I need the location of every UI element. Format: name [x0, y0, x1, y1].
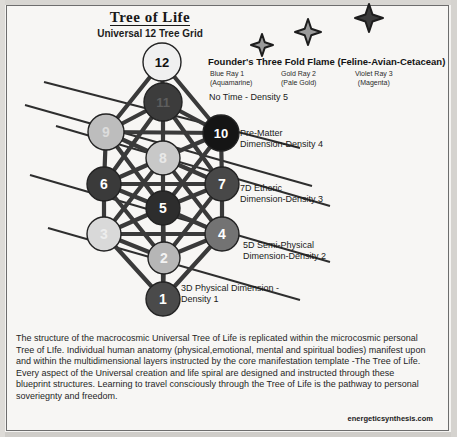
ray-color-blue: (Aquamarine)	[210, 78, 252, 87]
tree-node-label-10: 10	[214, 126, 228, 141]
tree-node-label-1: 1	[159, 291, 167, 307]
tree-node-11[interactable]: 11	[144, 83, 182, 121]
tree-node-label-3: 3	[100, 226, 108, 242]
tree-node-7[interactable]: 7	[205, 167, 239, 201]
ray-name-blue: Blue Ray 1	[210, 69, 252, 78]
tree-node-9[interactable]: 9	[88, 114, 124, 150]
tree-node-8[interactable]: 8	[146, 141, 180, 175]
density-label-1-line1: 3D Physical Dimension -	[181, 283, 279, 294]
ray-label-violet: Violet Ray 3 (Magenta)	[355, 69, 393, 87]
ray-label-blue: Blue Ray 1 (Aquamarine)	[210, 69, 252, 87]
ray-color-violet: (Magenta)	[355, 78, 393, 87]
density-label-1: 3D Physical Dimension - Density 1	[181, 283, 279, 305]
ray-label-gold: Gold Ray 2 (Pale Gold)	[281, 69, 316, 87]
tree-node-6[interactable]: 6	[87, 167, 121, 201]
density-label-3-line2: Dimension-Density 3	[240, 194, 323, 205]
density-label-4-line2: Dimension-Density 4	[240, 139, 323, 150]
tree-node-1[interactable]: 1	[146, 282, 180, 316]
description-paragraph: The structure of the macrocosmic Univers…	[16, 333, 430, 403]
tree-node-label-9: 9	[102, 124, 110, 140]
tree-node-label-8: 8	[159, 150, 167, 166]
tree-node-label-11: 11	[156, 95, 170, 110]
density-label-5: No Time - Density 5	[209, 92, 288, 103]
tree-node-10[interactable]: 10	[203, 115, 239, 151]
density-label-2-line2: Dimension-Density 2	[243, 251, 326, 262]
tree-node-label-4: 4	[218, 226, 226, 242]
density-label-3: 7D Etheric Dimension-Density 3	[240, 183, 323, 205]
ray-color-gold: (Pale Gold)	[281, 78, 316, 87]
tree-of-life-figure: Tree of Life Universal 12 Tree Grid 1234…	[0, 0, 457, 437]
tree-node-label-7: 7	[218, 176, 226, 192]
tree-node-label-12: 12	[155, 55, 169, 70]
density-label-1-line2: Density 1	[181, 294, 279, 305]
density-label-2: 5D Semi-Physical Dimension-Density 2	[243, 240, 326, 262]
density-label-3-line1: 7D Etheric	[240, 183, 323, 194]
density-label-2-line1: 5D Semi-Physical	[243, 240, 326, 251]
tree-node-4[interactable]: 4	[205, 217, 239, 251]
tree-node-2[interactable]: 2	[148, 242, 180, 274]
density-label-4-line1: Pre-Matter	[240, 128, 323, 139]
ray-name-gold: Gold Ray 2	[281, 69, 316, 78]
source-credit: energeticsynthesis.com	[348, 414, 433, 423]
stars-group	[251, 4, 383, 56]
four-point-star-icon-2	[295, 19, 321, 45]
four-point-star-icon-3	[355, 4, 383, 32]
tree-node-label-6: 6	[100, 176, 108, 192]
ray-name-violet: Violet Ray 3	[355, 69, 393, 78]
tree-node-5[interactable]: 5	[146, 191, 180, 225]
tree-node-3[interactable]: 3	[87, 217, 121, 251]
tree-node-label-2: 2	[160, 250, 168, 266]
tree-node-label-5: 5	[159, 200, 167, 216]
tree-node-12[interactable]: 12	[143, 43, 181, 81]
threefold-flame-heading: Founder's Three Fold Flame (Feline-Avian…	[208, 56, 445, 67]
four-point-star-icon-1	[251, 34, 273, 56]
density-label-4: Pre-Matter Dimension-Density 4	[240, 128, 323, 150]
